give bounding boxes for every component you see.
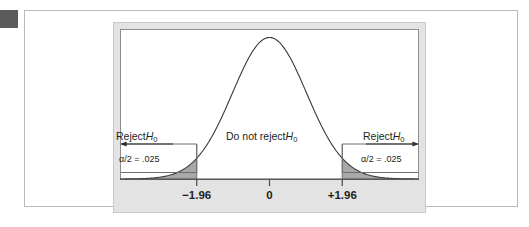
corner-marker-square — [0, 10, 18, 28]
axis-tick-label-zero: 0 — [240, 190, 300, 202]
do-not-reject-h0-label: Do not rejectH0 — [226, 131, 297, 144]
alpha-half-label-right: α/2 = .025 — [361, 155, 401, 164]
reject-left-subscript: 0 — [153, 135, 157, 144]
alpha-half-label-left: α/2 = .025 — [119, 155, 159, 164]
reject-h0-label-left: RejectH0 — [116, 131, 158, 144]
reject-right-subscript: 0 — [400, 135, 404, 144]
do-not-reject-text: Do not reject — [226, 130, 286, 142]
do-not-reject-subscript: 0 — [293, 135, 297, 144]
reject-h0-label-right: RejectH0 — [363, 131, 405, 144]
reject-left-text: Reject — [116, 130, 146, 142]
do-not-reject-h-symbol: H — [286, 130, 294, 142]
figure-root: RejectH0 Do not rejectH0 RejectH0 α/2 = … — [0, 0, 529, 227]
axis-tick-label-positive: +1.96 — [312, 190, 372, 202]
axis-tick-label-negative: −1.96 — [167, 190, 227, 202]
reject-right-text: Reject — [363, 130, 393, 142]
